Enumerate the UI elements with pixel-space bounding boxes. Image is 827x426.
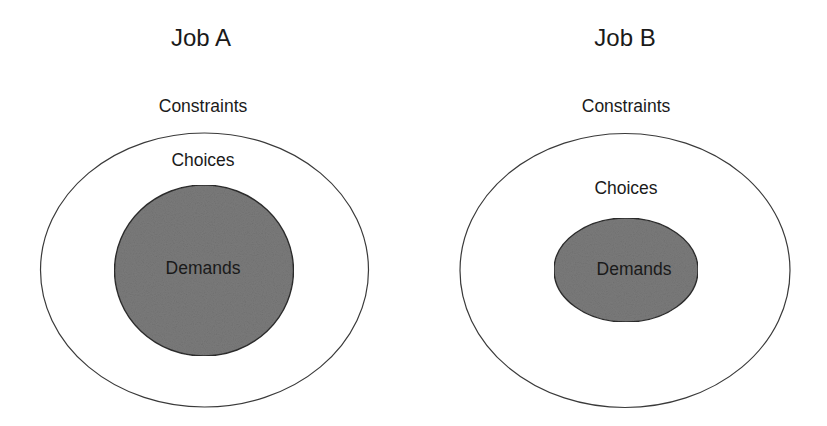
job-b-constraints-label: Constraints: [582, 98, 671, 116]
job-b-choices-label: Choices: [594, 180, 657, 198]
diagram-canvas: [0, 0, 827, 426]
job-a-constraints-label: Constraints: [159, 98, 248, 116]
job-b-title: Job B: [594, 26, 655, 50]
job-b-demands-label: Demands: [597, 261, 672, 279]
job-a-choices-label: Choices: [171, 152, 234, 170]
job-a-title: Job A: [171, 26, 231, 50]
job-a-demands-label: Demands: [166, 260, 241, 278]
